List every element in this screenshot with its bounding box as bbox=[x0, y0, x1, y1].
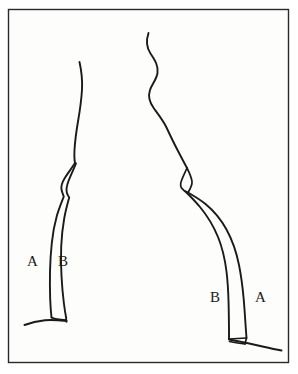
label-left-b: B bbox=[58, 254, 68, 269]
figure-container: A B B A bbox=[0, 0, 298, 374]
label-right-b: B bbox=[210, 290, 220, 305]
label-left-a: A bbox=[27, 254, 38, 269]
right-foot-top bbox=[229, 338, 246, 339]
figure-drawing bbox=[0, 0, 298, 374]
label-right-a: A bbox=[255, 290, 266, 305]
